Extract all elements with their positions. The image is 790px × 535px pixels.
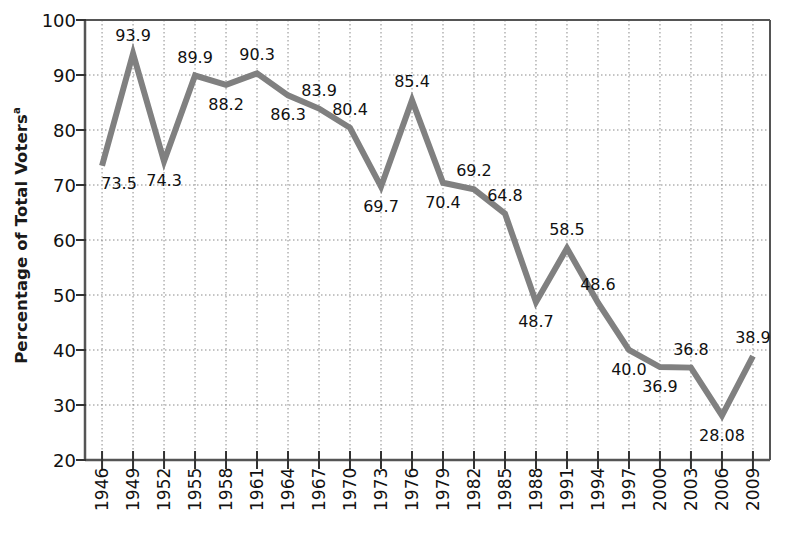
gridlines: [85, 20, 770, 460]
plot-area: [0, 0, 790, 535]
series-line: [102, 54, 753, 416]
data-series-line: [102, 54, 753, 416]
axis-ticks: [76, 20, 753, 469]
plot-frame: [85, 20, 770, 460]
voter-turnout-line-chart: Percentage of Total Votersa 100908070605…: [0, 0, 790, 535]
